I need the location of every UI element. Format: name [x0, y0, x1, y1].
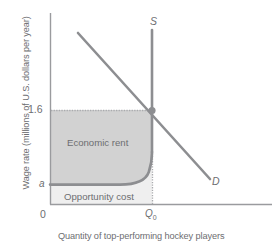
x-axis-title: Quantity of top-performing hockey player… [58, 232, 224, 241]
x-tick-label-q0: Q0 [145, 209, 157, 221]
supply-curve-label: S [150, 16, 157, 27]
demand-curve-label: D [212, 176, 220, 187]
economic-rent-diagram: Wage rate (millions of U.S. dollars per … [0, 0, 279, 246]
y-tick-label-a: a [39, 179, 45, 189]
y-tick-label-1-6: 1.6 [28, 104, 43, 115]
x-tick-label-q0-base: Q [145, 208, 153, 219]
x-tick-label-q0-sub: 0 [153, 214, 157, 221]
opportunity-cost-label: Opportunity cost [64, 192, 134, 202]
equilibrium-point [148, 107, 155, 114]
origin-label: 0 [40, 209, 46, 220]
economic-rent-label: Economic rent [67, 138, 128, 148]
